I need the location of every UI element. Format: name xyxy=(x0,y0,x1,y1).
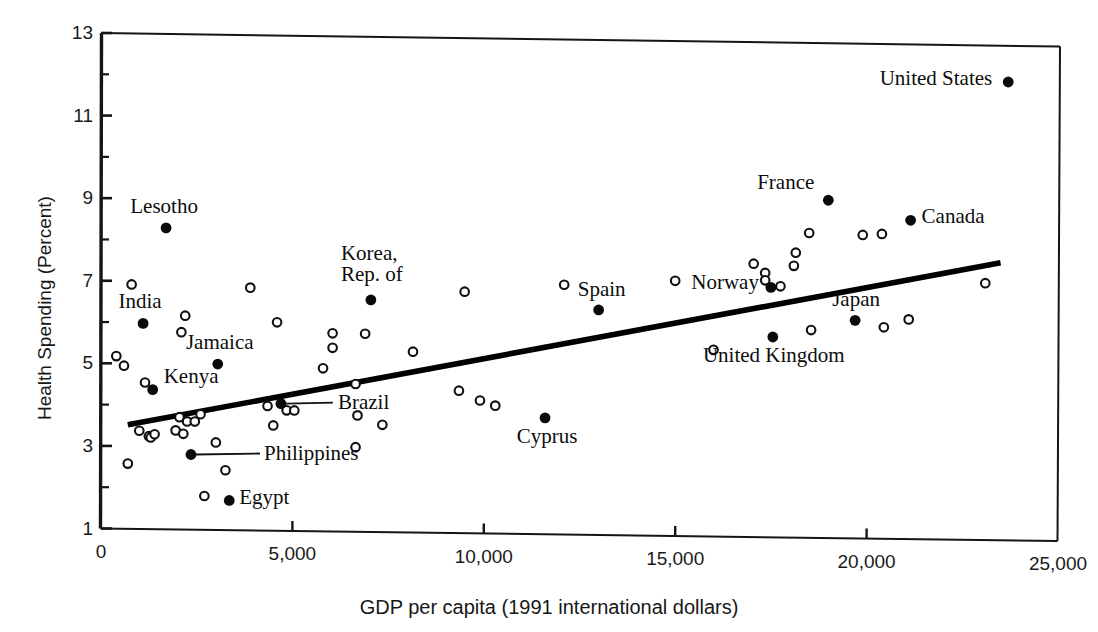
filled-marker xyxy=(905,215,916,226)
open-marker xyxy=(135,426,144,435)
filled-marker xyxy=(276,398,287,409)
open-marker xyxy=(878,230,887,239)
frame-right-border xyxy=(1058,47,1061,542)
open-marker xyxy=(807,326,816,335)
filled-marker xyxy=(161,223,172,234)
open-marker xyxy=(791,248,800,257)
open-marker xyxy=(112,352,121,361)
y-tick-label: 13 xyxy=(49,22,93,44)
open-marker xyxy=(361,329,370,338)
point-label-canada: Canada xyxy=(922,206,985,227)
open-marker xyxy=(378,421,387,430)
filled-marker xyxy=(147,384,158,395)
open-marker xyxy=(319,364,328,373)
open-marker xyxy=(141,378,150,387)
point-label-france: France xyxy=(757,172,814,193)
open-marker xyxy=(460,287,469,296)
unlabeled-data-points xyxy=(112,229,990,501)
x-axis-ticks xyxy=(292,521,866,539)
point-label-united-states: United States xyxy=(880,68,993,89)
x-tick-label: 10,000 xyxy=(455,546,513,568)
point-label-jamaica: Jamaica xyxy=(186,332,254,353)
x-axis-line xyxy=(101,529,1058,542)
filled-marker xyxy=(186,449,197,460)
plot-canvas xyxy=(0,0,1098,632)
open-marker xyxy=(120,361,129,370)
open-marker xyxy=(179,429,188,438)
leader-line-brazil xyxy=(286,403,333,404)
scatter-plot-figure: 13579111305,00010,00015,00020,00025,000 … xyxy=(0,0,1098,632)
point-label-norway: Norway xyxy=(691,272,759,293)
open-marker xyxy=(290,406,299,415)
y-axis-title: Health Spending (Percent) xyxy=(34,196,56,420)
filled-marker xyxy=(593,305,604,316)
open-marker xyxy=(273,318,282,327)
open-marker xyxy=(790,262,799,271)
open-marker xyxy=(127,280,136,289)
leader-line-philippines xyxy=(196,454,260,455)
x-tick-label: 0 xyxy=(96,541,107,563)
open-marker xyxy=(671,277,680,286)
filled-marker xyxy=(224,495,235,506)
open-marker xyxy=(749,259,758,268)
filled-marker xyxy=(766,282,777,293)
point-label-spain: Spain xyxy=(578,279,626,300)
filled-marker xyxy=(138,318,149,329)
open-marker xyxy=(560,280,569,289)
point-label-korea: Korea,Rep. of xyxy=(341,243,403,286)
open-marker xyxy=(981,279,990,288)
open-marker xyxy=(409,347,418,356)
filled-marker xyxy=(1003,77,1014,88)
open-marker xyxy=(190,417,199,426)
filled-marker xyxy=(850,315,861,326)
point-label-united-kingdom: United Kingdom xyxy=(703,345,845,366)
point-label-philippines: Philippines xyxy=(264,443,359,464)
open-marker xyxy=(858,231,867,240)
y-tick-label: 1 xyxy=(49,518,93,540)
filled-marker xyxy=(540,412,551,423)
open-marker xyxy=(123,459,132,468)
point-label-lesotho: Lesotho xyxy=(130,196,198,217)
open-marker xyxy=(181,311,190,320)
open-marker xyxy=(177,328,186,337)
open-marker xyxy=(328,329,337,338)
open-marker xyxy=(212,438,221,447)
open-marker xyxy=(200,492,209,501)
open-marker xyxy=(328,343,337,352)
point-label-kenya: Kenya xyxy=(164,366,219,387)
open-marker xyxy=(150,430,159,439)
filled-marker xyxy=(365,295,376,306)
open-marker xyxy=(904,315,913,324)
filled-marker xyxy=(823,195,834,206)
open-marker xyxy=(805,229,814,238)
open-marker xyxy=(776,282,785,291)
open-marker xyxy=(246,283,255,292)
open-marker xyxy=(476,396,485,405)
open-marker xyxy=(880,323,889,332)
frame-top-border xyxy=(102,33,1061,47)
open-marker xyxy=(455,386,464,395)
point-label-india: India xyxy=(119,291,162,312)
x-tick-label: 5,000 xyxy=(269,543,317,565)
point-label-cyprus: Cyprus xyxy=(517,426,578,447)
open-marker xyxy=(221,466,230,475)
open-marker xyxy=(351,380,360,389)
filled-marker xyxy=(767,332,778,343)
open-marker xyxy=(491,401,500,410)
point-label-japan: Japan xyxy=(832,289,880,310)
open-marker xyxy=(263,402,272,411)
x-tick-label: 20,000 xyxy=(838,551,896,573)
point-label-egypt: Egypt xyxy=(239,487,289,508)
point-label-brazil: Brazil xyxy=(338,392,389,413)
open-marker xyxy=(269,421,278,430)
y-tick-label: 11 xyxy=(49,105,93,127)
y-tick-label: 3 xyxy=(49,435,93,457)
x-tick-label: 25,000 xyxy=(1029,553,1087,575)
x-tick-label: 15,000 xyxy=(646,548,704,570)
x-axis-title: GDP per capita (1991 international dolla… xyxy=(0,596,1098,619)
